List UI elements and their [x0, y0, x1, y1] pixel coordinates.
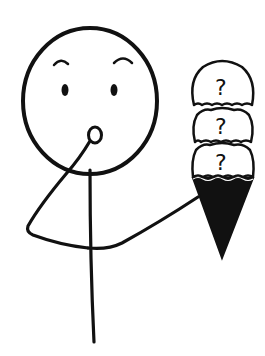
head [23, 28, 157, 174]
body [90, 170, 94, 342]
scoop-top-label: ? [215, 75, 227, 100]
stick-figure-illustration: ? ? ? [0, 0, 265, 356]
right-arm [88, 197, 198, 248]
left-eye [62, 84, 69, 96]
scoop-middle-label: ? [215, 114, 227, 139]
right-eye [111, 84, 118, 96]
illustration-canvas: ? ? ? [0, 0, 265, 356]
scoop-bottom-label: ? [215, 150, 227, 175]
cone [193, 178, 253, 258]
ice-cream-cone: ? ? ? [192, 61, 253, 258]
